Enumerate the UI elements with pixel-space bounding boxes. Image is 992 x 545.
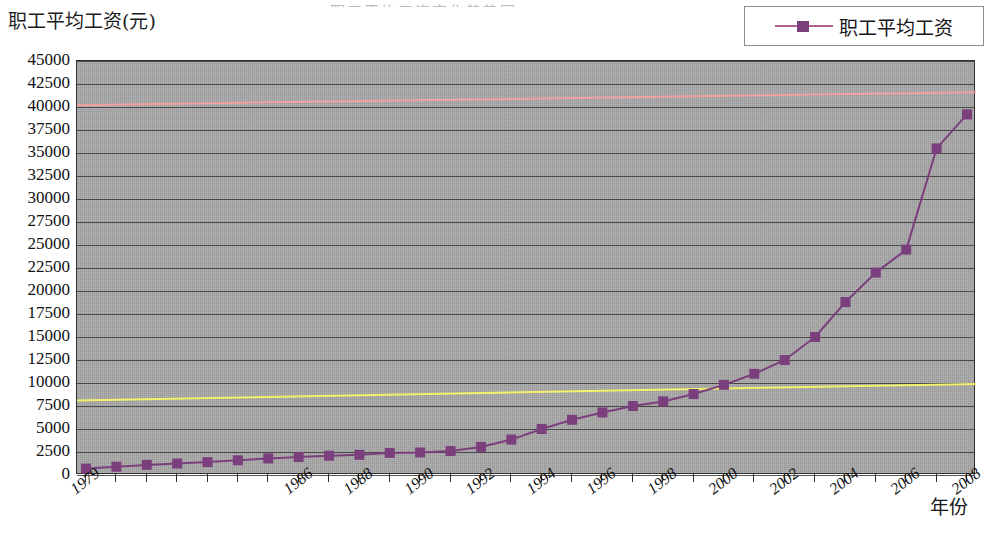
y-tick-label: 12500 [0, 349, 70, 369]
legend-label-0: 职工平均工资 [839, 13, 953, 40]
data-point-marker [810, 332, 820, 342]
y-tick-label: 20000 [0, 280, 70, 300]
y-tick-label: 30000 [0, 188, 70, 208]
y-axis-title: 职工平均工资(元) [8, 6, 156, 33]
x-tick [146, 474, 147, 482]
lower-reference-line [77, 384, 976, 401]
series-line-path [86, 114, 967, 468]
data-point-marker [324, 451, 334, 461]
x-tick [814, 474, 815, 482]
legend-marker-icon [775, 19, 833, 33]
x-tick [450, 474, 451, 482]
data-point-marker [932, 143, 942, 153]
data-point-marker [385, 448, 395, 458]
y-tick-label: 42500 [0, 73, 70, 93]
chart-title-remnant: 职工平均工资变化趋势图 [330, 0, 750, 7]
data-point-marker [446, 446, 456, 456]
y-tick-label: 25000 [0, 234, 70, 254]
x-tick [875, 474, 876, 482]
data-point-marker [689, 389, 699, 399]
x-tick [328, 474, 329, 482]
data-point-marker [719, 380, 729, 390]
data-point-marker [476, 442, 486, 452]
data-point-marker [263, 453, 273, 463]
x-tick [389, 474, 390, 482]
x-tick [693, 474, 694, 482]
data-point-marker [749, 369, 759, 379]
x-tick [753, 474, 754, 482]
data-point-marker [233, 455, 243, 465]
y-tick-label: 10000 [0, 372, 70, 392]
data-point-marker [172, 459, 182, 469]
data-point-marker [597, 407, 607, 417]
chart-legend: 职工平均工资 [744, 6, 984, 46]
y-tick-label: 32500 [0, 165, 70, 185]
x-axis-title: 年份 [930, 492, 968, 519]
data-point-marker [658, 396, 668, 406]
y-tick-label: 2500 [0, 441, 70, 461]
y-tick-label: 27500 [0, 211, 70, 231]
data-point-marker [354, 450, 364, 460]
x-tick [267, 474, 268, 482]
data-point-marker [415, 447, 425, 457]
y-tick-label: 17500 [0, 303, 70, 323]
y-tick-label: 15000 [0, 326, 70, 346]
y-tick-label: 22500 [0, 257, 70, 277]
data-point-marker [506, 435, 516, 445]
data-point-marker [203, 457, 213, 467]
x-tick [936, 474, 937, 482]
data-point-marker [962, 109, 972, 119]
data-point-marker [840, 297, 850, 307]
data-point-marker [901, 245, 911, 255]
y-tick-label: 45000 [0, 50, 70, 70]
x-tick [207, 474, 208, 482]
data-point-marker [780, 355, 790, 365]
x-tick [510, 474, 511, 482]
x-tick [237, 474, 238, 482]
y-tick-label: 0 [0, 464, 70, 484]
y-tick-label: 5000 [0, 418, 70, 438]
reference-lines [77, 92, 976, 400]
data-point-marker [567, 415, 577, 425]
x-tick [632, 474, 633, 482]
data-point-marker [871, 268, 881, 278]
data-point-marker [537, 424, 547, 434]
upper-reference-line [77, 92, 976, 105]
x-tick [571, 474, 572, 482]
y-tick-label: 37500 [0, 119, 70, 139]
data-point-marker [142, 460, 152, 470]
x-tick [115, 474, 116, 482]
series-overlay [77, 61, 976, 475]
y-tick-label: 40000 [0, 96, 70, 116]
chart-canvas: 职工平均工资变化趋势图 职工平均工资(元) 职工平均工资 45000425004… [0, 0, 992, 545]
plot-area [76, 60, 975, 474]
data-point-marker [628, 401, 638, 411]
data-point-marker [111, 462, 121, 472]
y-tick-label: 35000 [0, 142, 70, 162]
x-tick [176, 474, 177, 482]
data-point-marker [294, 452, 304, 462]
series-markers [81, 109, 972, 473]
y-tick-label: 7500 [0, 395, 70, 415]
